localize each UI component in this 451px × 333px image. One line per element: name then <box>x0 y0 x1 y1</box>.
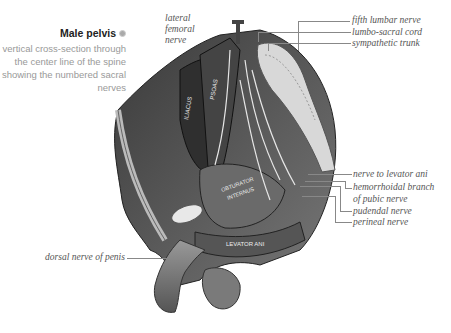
leader-line <box>268 43 269 51</box>
leader-line <box>268 43 351 44</box>
label-line: lateral <box>165 13 195 24</box>
label-lateral-femoral-nerve: lateral femoral nerve <box>165 13 195 46</box>
leader-line <box>335 196 336 222</box>
label-hemorrhoidal-branch: hemorrhoidal branch <box>353 182 434 193</box>
label-sympathetic-trunk: sympathetic trunk <box>352 38 420 49</box>
leader-line <box>298 21 299 51</box>
label-line: femoral <box>165 24 195 35</box>
leader-line <box>127 258 182 259</box>
leader-line <box>258 32 259 42</box>
label-fifth-lumbar-nerve: fifth lumbar nerve <box>352 15 421 26</box>
leader-line <box>300 186 340 187</box>
label-pudendal-nerve: pudendal nerve <box>353 206 412 217</box>
label-perineal-nerve: perineal nerve <box>353 217 408 228</box>
pelvis-illustration: ILIACUS PSOAS OBTURATOR INTERNUS LEVATOR… <box>0 0 451 333</box>
leader-line <box>340 211 352 212</box>
leader-line <box>335 222 352 223</box>
label-dorsal-nerve-of-penis: dorsal nerve of penis <box>45 252 125 263</box>
label-lumbo-sacral-cord: lumbo-sacral cord <box>352 27 422 38</box>
svg-text:LEVATOR ANI: LEVATOR ANI <box>226 241 265 247</box>
leader-line <box>298 21 350 22</box>
leader-line <box>345 188 352 189</box>
label-of-pubic-nerve: of pubic nerve <box>353 194 407 205</box>
leader-line <box>302 196 335 197</box>
leader-line <box>305 181 345 182</box>
label-line: nerve <box>165 35 195 46</box>
leader-line <box>340 186 341 212</box>
label-nerve-to-levator-ani: nerve to levator ani <box>353 169 428 180</box>
leader-line <box>258 32 351 33</box>
leader-line <box>308 174 352 175</box>
